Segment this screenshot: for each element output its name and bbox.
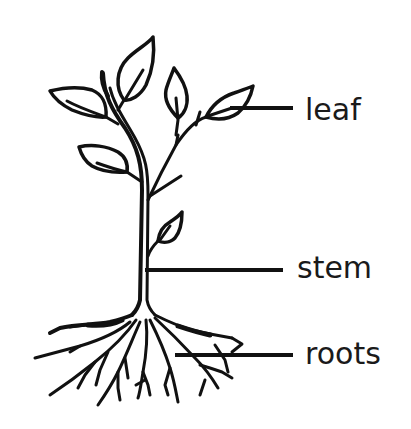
stem-drawing bbox=[102, 72, 155, 315]
label-stem: stem bbox=[297, 253, 372, 283]
leaf-middle-left bbox=[79, 146, 127, 173]
leaf-top bbox=[118, 37, 154, 100]
label-leaf: leaf bbox=[305, 95, 361, 125]
label-roots: roots bbox=[305, 339, 381, 369]
roots-drawing bbox=[35, 315, 242, 405]
leaves bbox=[50, 37, 253, 242]
